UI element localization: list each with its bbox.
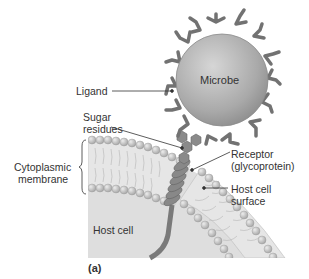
sugar-residues-label-line2: residues xyxy=(83,123,123,135)
microbe-label: Microbe xyxy=(200,74,239,86)
receptor-label-line1: Receptor xyxy=(231,148,274,160)
panel-label: (a) xyxy=(88,262,101,274)
diagram-canvas xyxy=(0,0,309,279)
host-cell-surface-label-line2: surface xyxy=(231,195,265,207)
host-cell-label: Host cell xyxy=(93,224,133,236)
host-cell-surface-label-line1: Host cell xyxy=(231,183,271,195)
cytoplasmic-membrane-label-line1: Cytoplasmic xyxy=(14,161,71,173)
sugar-residues-label-line1: Sugar xyxy=(83,111,111,123)
ligand-label: Ligand xyxy=(76,85,108,97)
cytoplasmic-membrane-label-line2: membrane xyxy=(18,173,68,185)
receptor-label-line2: (glycoprotein) xyxy=(231,160,295,172)
